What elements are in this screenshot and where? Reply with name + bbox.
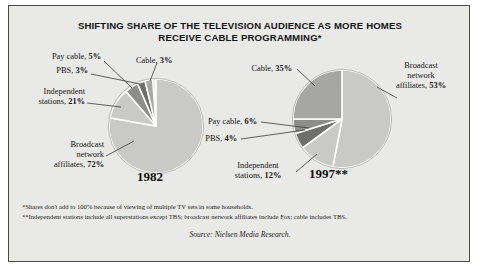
label-1982-independent-line-1: Independent [9,87,85,97]
leader-1982-pay-cable [104,61,132,88]
label-1982-cable: Cable, 3% [136,56,172,66]
slice-1997-cable [293,70,342,119]
pie-charts-graphic [9,6,470,262]
leader-1997-cable [297,69,315,86]
label-1997-cable: Cable, 35% [187,64,292,74]
label-1997-independent-line-2: stations, 12% [221,171,295,181]
label-1997-pbs: PBS, 4% [169,134,237,144]
figure-frame: SHIFTING SHARE OF THE TELEVISION AUDIENC… [8,5,470,262]
year-label-1997: 1997** [309,166,348,182]
leader-1982-pbs [91,74,140,84]
label-1982-broadcast-line-1: Broadcast [9,140,104,150]
label-1982-broadcast-line-3: affiliates, 72% [9,160,104,170]
year-label-1982: 1982 [137,169,163,185]
footnote-independent-stations: **Independent stations include all super… [22,212,347,221]
label-1997-independent-line-1: Independent [221,161,295,171]
label-1997-broadcast-line-3: affiliates, 53% [375,81,467,91]
label-1997-pay-cable: Pay cable, 6% [169,117,257,127]
label-1997-broadcast-line-1: Broadcast [375,61,467,71]
footnote-shares: *Shares don't add to 100% because of vie… [22,202,253,211]
source-line: Source: Nielsen Media Research. [9,230,470,239]
label-1982-pbs: PBS, 3% [9,66,88,76]
label-1982-broadcast-line-2: network [9,150,104,160]
label-1997-broadcast-line-2: network [375,71,467,81]
pie-1997 [241,69,397,172]
label-1982-pay-cable: Pay cable, 5% [9,52,101,62]
label-1982-independent-line-2: stations, 21% [9,97,85,107]
